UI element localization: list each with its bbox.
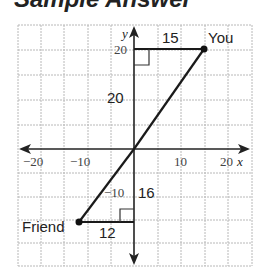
point-friend <box>76 219 83 226</box>
point-you <box>201 46 208 53</box>
y-tick-label: −10 <box>104 185 124 200</box>
you-triangle <box>134 49 204 149</box>
segment-label: 16 <box>138 184 155 201</box>
coordinate-graph: y x −20 −10 10 20 20 −10 You Friend 15 2… <box>0 0 265 276</box>
point-label-you: You <box>208 29 233 46</box>
x-tick-label: −20 <box>23 154 43 169</box>
y-axis-label: y <box>120 26 128 41</box>
x-tick-label: 20 <box>220 154 233 169</box>
segment-label: 20 <box>107 89 124 106</box>
x-axis-label: x <box>236 154 243 169</box>
segment-label: 12 <box>99 224 116 241</box>
x-tick-label: 10 <box>174 154 187 169</box>
y-tick-label: 20 <box>114 42 127 57</box>
x-tick-label: −10 <box>70 154 90 169</box>
segment-label: 15 <box>162 29 179 46</box>
point-label-friend: Friend <box>22 218 65 235</box>
